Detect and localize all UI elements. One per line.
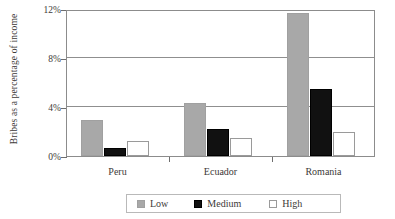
bar-ecuador-high	[230, 138, 252, 156]
bar-ecuador-medium	[207, 129, 229, 156]
bar-peru-medium	[104, 148, 126, 156]
bar-romania-high	[333, 132, 355, 157]
x-axis-tick-label: Romania	[272, 166, 375, 177]
y-axis-tick-label: 0%	[27, 152, 61, 162]
x-axis-tick-label: Ecuador	[169, 166, 272, 177]
bar-chart-figure: Bribes as a percentage of income 0%4%8%1…	[0, 0, 395, 219]
bar-group	[273, 11, 376, 156]
legend-label: Medium	[207, 198, 241, 209]
chart-legend: LowMediumHigh	[126, 194, 341, 213]
bar-peru-high	[127, 141, 149, 156]
y-axis-tick-label: 8%	[27, 54, 61, 64]
bar-romania-low	[287, 13, 309, 156]
x-axis-tick-mark	[169, 157, 170, 162]
legend-swatch-high-icon	[269, 200, 277, 208]
legend-swatch-low-icon	[137, 200, 145, 208]
bar-group	[170, 11, 273, 156]
legend-swatch-medium-icon	[194, 200, 202, 208]
legend-entry-medium: Medium	[194, 198, 241, 209]
y-axis-tick-mark	[61, 157, 67, 158]
legend-entry-high: High	[269, 198, 302, 209]
legend-label: Low	[150, 198, 168, 209]
bar-peru-low	[81, 120, 103, 156]
legend-entry-low: Low	[137, 198, 168, 209]
legend-label: High	[282, 198, 302, 209]
bar-group	[67, 11, 170, 156]
y-axis-title: Bribes as a percentage of income	[9, 0, 19, 159]
x-axis-tick-label: Peru	[66, 166, 169, 177]
y-axis-tick-label: 12%	[27, 5, 61, 15]
plot-area	[66, 10, 375, 157]
bar-ecuador-low	[184, 103, 206, 156]
bar-romania-medium	[310, 89, 332, 156]
x-axis-tick-mark	[272, 157, 273, 162]
y-axis-tick-label: 4%	[27, 103, 61, 113]
